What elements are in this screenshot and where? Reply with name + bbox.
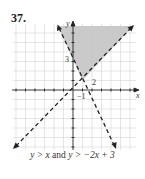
tick-label-neg1: −1 [77,92,86,101]
caption-part2: y > −2x + 3 [68,150,115,160]
x-axis-label: x [135,91,140,100]
y-axis-label: y [65,19,70,28]
solution-region [58,26,133,81]
chart-caption: y > x and y > −2x + 3 [0,150,145,160]
tick-label-2: 2 [92,78,96,87]
caption-connector: and [50,150,68,160]
caption-part1: > x [34,150,49,160]
tick-label-3: 3 [65,55,69,64]
